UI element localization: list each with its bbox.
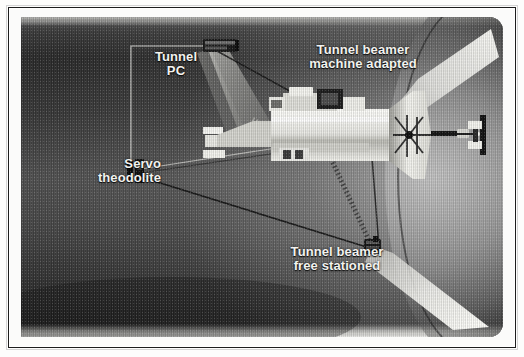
bore-shadow xyxy=(21,277,361,337)
label-tunnel-beamer-free-stationed: Tunnel beamer free stationed xyxy=(251,245,423,273)
label-servo-theodolite: Servo theodolite xyxy=(69,157,161,185)
figure-root: Tunnel PC Servo theodolite Tunnel beamer… xyxy=(0,0,524,357)
illustration-plate: Tunnel PC Servo theodolite Tunnel beamer… xyxy=(21,17,503,337)
label-tunnel-beamer-machine-adapted: Tunnel beamer machine adapted xyxy=(279,43,447,71)
label-tunnel-pc: Tunnel PC xyxy=(137,50,215,78)
